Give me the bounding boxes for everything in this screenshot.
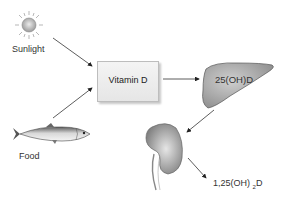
product-label: 1,25(OH) 2D xyxy=(213,178,262,190)
food-label: Food xyxy=(19,151,40,161)
sunlight-label: Sunlight xyxy=(12,44,45,54)
arrow-kidney-to-product xyxy=(188,158,206,178)
arrow-food-to-vitamin-d xyxy=(53,88,92,118)
vitamin-d-label: Vitamin D xyxy=(98,75,158,85)
arrows xyxy=(53,38,214,178)
arrow-sunlight-to-vitamin-d xyxy=(53,38,92,66)
fish-icon xyxy=(13,123,90,144)
vitamin-d-box: Vitamin D xyxy=(97,61,159,102)
sun-icon xyxy=(15,11,43,39)
liver-icon xyxy=(203,63,274,108)
liver-label: 25(OH)D xyxy=(215,74,253,85)
kidney-icon xyxy=(146,124,182,190)
arrow-liver-to-kidney xyxy=(187,110,214,132)
